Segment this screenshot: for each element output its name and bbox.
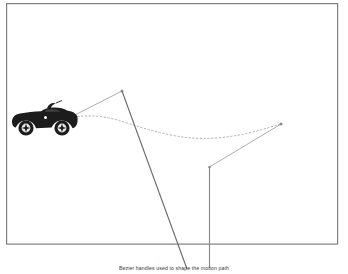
car-highlight-icon (44, 116, 47, 119)
anchor-dot-right[interactable] (279, 122, 282, 125)
motion-path-figure-canvas (0, 0, 348, 274)
figure-caption: Bezier handles used to shape the motion … (0, 265, 348, 272)
figure-root: Bezier handles used to shape the motion … (0, 0, 348, 274)
